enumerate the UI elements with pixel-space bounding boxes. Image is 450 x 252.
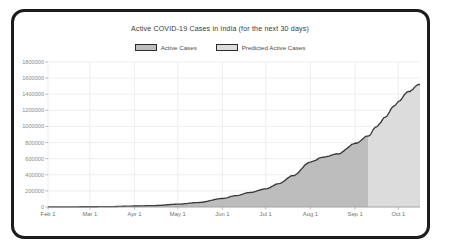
x-axis-labels: Feb 1Mar 1Apr 1May 1Jun 1Jul 1Aug 1Sep 1… [0,0,450,252]
x-axis-tick-label: Mar 1 [82,211,97,217]
x-axis-tick-label: Feb 1 [41,211,56,217]
x-axis-tick-label: Jul 1 [260,211,272,217]
x-axis-tick-label: Oct 1 [391,211,405,217]
x-axis-tick-label: Aug 1 [303,211,318,217]
x-axis-tick-label: Sep 1 [348,211,363,217]
x-axis-tick-label: Apr 1 [128,211,142,217]
x-axis-tick-label: Jun 1 [215,211,229,217]
x-axis-tick-label: May 1 [170,211,186,217]
